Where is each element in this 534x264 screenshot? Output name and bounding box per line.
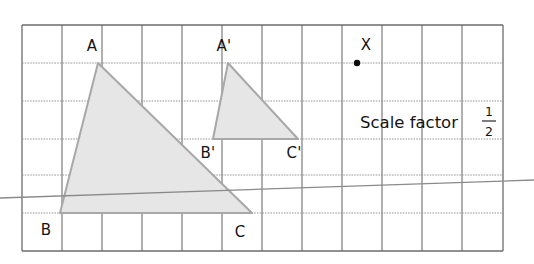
scale-factor-label: Scale factor (360, 113, 458, 132)
label-b-prime: B' (201, 144, 216, 162)
label-b: B (41, 221, 52, 239)
centre-of-enlargement-dot (354, 60, 360, 66)
geometry-figure: ABCA'B'C'X Scale factor 1 2 (0, 0, 534, 264)
label-c-prime: C' (287, 144, 302, 162)
label-a: A (87, 37, 98, 55)
label-a-prime: A' (217, 37, 232, 55)
fraction-numerator: 1 (485, 104, 493, 119)
label-c: C (235, 223, 246, 241)
figure-canvas: ABCA'B'C'X Scale factor 1 2 (0, 0, 534, 264)
fraction-denominator: 2 (485, 124, 493, 139)
label-x: X (361, 36, 371, 54)
